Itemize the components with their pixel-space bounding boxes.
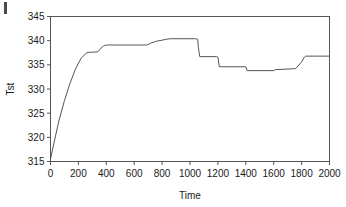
x-axis-tick-label: 1200	[207, 168, 230, 179]
x-axis-tick-label: 1800	[290, 168, 313, 179]
x-axis-tick-label: 600	[126, 168, 143, 179]
y-axis-tick-label: 330	[28, 84, 45, 95]
y-axis-tick-label: 335	[28, 59, 45, 70]
y-axis-title: Tst	[5, 82, 16, 95]
x-axis-tick-label: 800	[154, 168, 171, 179]
line-chart: 315320325330335340345 020040060080010001…	[0, 0, 346, 207]
data-series-line	[51, 39, 330, 159]
y-axis-tick-label: 340	[28, 35, 45, 46]
x-axis-tick-label: 0	[48, 168, 54, 179]
y-axis-tick-label: 325	[28, 108, 45, 119]
x-axis-tick-label: 200	[70, 168, 87, 179]
page-edge-mark	[4, 2, 7, 14]
x-axis-tick-label: 400	[98, 168, 115, 179]
chart-figure: 315320325330335340345 020040060080010001…	[0, 0, 346, 207]
y-axis-tick-label: 320	[28, 132, 45, 143]
x-axis-tick-label: 1000	[179, 168, 202, 179]
x-axis-tick-label: 1400	[235, 168, 258, 179]
x-axis-tick-labels: 0200400600800100012001400160018002000	[48, 168, 341, 179]
x-axis-tick-label: 1600	[263, 168, 286, 179]
x-axis-title: Time	[179, 190, 201, 201]
y-axis-tick-label: 315	[28, 156, 45, 167]
y-axis-tick-labels: 315320325330335340345	[28, 11, 45, 167]
x-axis-ticks	[51, 162, 330, 166]
x-axis-tick-label: 2000	[318, 168, 341, 179]
y-axis-ticks	[47, 17, 51, 162]
y-axis-tick-label: 345	[28, 11, 45, 22]
